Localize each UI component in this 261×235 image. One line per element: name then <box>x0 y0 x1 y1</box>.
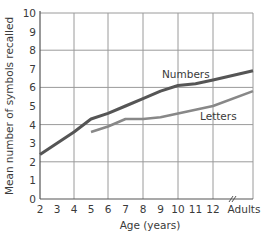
x-axis-ticks: 23456789101112Adults <box>37 203 261 215</box>
x-tick-label: 6 <box>105 203 112 215</box>
axes <box>40 11 253 202</box>
y-axis-label: Mean number of symbols recalled <box>3 17 15 195</box>
x-tick-label: 12 <box>206 203 219 215</box>
x-tick-label: 7 <box>122 203 129 215</box>
x-tick-label: 11 <box>189 203 202 215</box>
x-tick-label: 9 <box>157 203 164 215</box>
series-label-letters: Letters <box>200 110 237 122</box>
x-tick-label: 4 <box>71 203 78 215</box>
x-tick-label: 2 <box>37 203 44 215</box>
grid-lines <box>40 13 253 199</box>
y-tick-label: 8 <box>29 44 36 56</box>
x-tick-label: 10 <box>171 203 184 215</box>
x-tick-label: Adults <box>228 203 261 215</box>
series-label-numbers: Numbers <box>162 68 210 80</box>
x-tick-label: 3 <box>54 203 61 215</box>
x-tick-label: 5 <box>88 203 95 215</box>
y-tick-label: 9 <box>29 26 36 38</box>
y-tick-label: 2 <box>29 156 36 168</box>
y-tick-label: 1 <box>29 174 36 186</box>
y-tick-label: 3 <box>29 137 36 149</box>
y-axis-ticks: 012345678910 <box>23 7 37 205</box>
line-chart: 012345678910 23456789101112Adults Number… <box>0 0 261 235</box>
x-tick-label: 8 <box>140 203 147 215</box>
y-tick-label: 0 <box>29 193 36 205</box>
y-tick-label: 7 <box>29 63 36 75</box>
y-tick-label: 5 <box>29 100 36 112</box>
y-tick-label: 4 <box>29 119 36 131</box>
x-axis-label: Age (years) <box>120 219 181 231</box>
y-tick-label: 10 <box>23 7 36 19</box>
y-tick-label: 6 <box>29 81 36 93</box>
